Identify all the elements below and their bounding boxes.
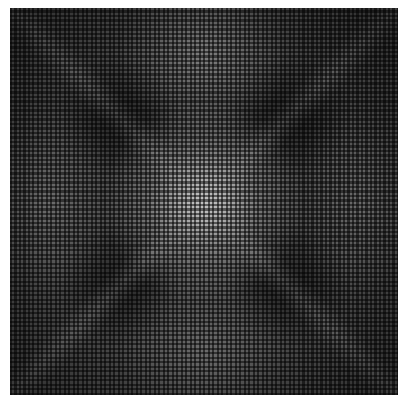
- op-art-pattern: [10, 8, 398, 395]
- edge-vignette: [10, 8, 398, 395]
